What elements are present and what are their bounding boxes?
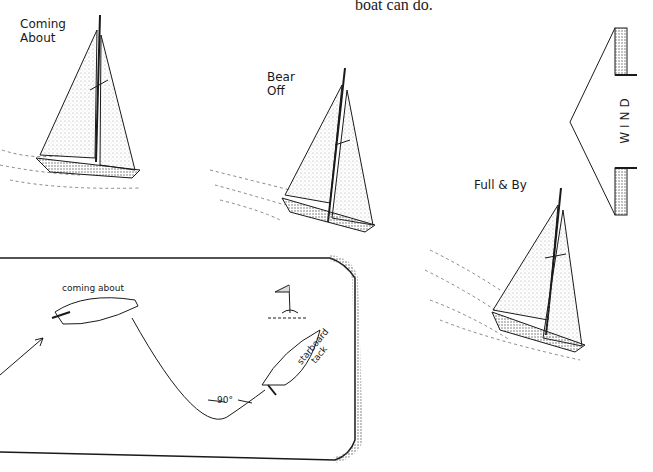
caption-text: boat can do. xyxy=(355,0,433,14)
label-line: Off xyxy=(267,84,295,98)
buoy-flag-icon xyxy=(268,285,308,318)
approach-arrow-icon xyxy=(0,338,43,375)
label-line: About xyxy=(20,31,66,45)
figure-label-coming-about: Coming About xyxy=(20,17,66,45)
inset-boat-coming-about-icon xyxy=(52,298,138,324)
figure-label-full-and-by: Full & By xyxy=(474,178,527,192)
illustration-canvas xyxy=(0,0,653,472)
label-line: Bear xyxy=(267,70,295,84)
inset-angle-label: 90° xyxy=(217,395,233,405)
sailboat-full-and-by-icon xyxy=(425,188,585,360)
label-line: Coming xyxy=(20,17,66,31)
course-line xyxy=(132,318,265,419)
wind-label: WIND xyxy=(618,89,632,149)
inset-label-coming-about: coming about xyxy=(62,283,124,293)
figure-label-bear-off: Bear Off xyxy=(267,70,295,98)
